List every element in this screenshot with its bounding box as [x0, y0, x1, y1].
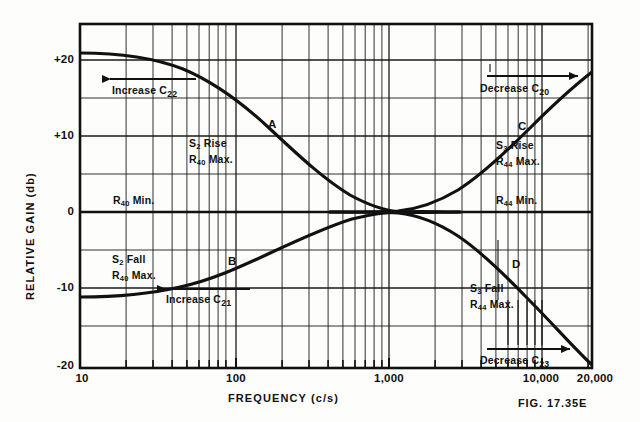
- increase-c21-text: Increase C: [166, 293, 221, 305]
- decrease-c23-subscript: 23: [539, 359, 549, 369]
- s3-fall-line2: R44 Max.: [470, 298, 514, 314]
- decrease-c20-subscript: 20: [539, 87, 549, 97]
- annotation-increase-c22: Increase C22: [112, 84, 177, 99]
- s2-fall-line1: S2 Fall: [112, 253, 156, 269]
- s3-rise-line2: R44 Max.: [496, 155, 540, 171]
- curve-label-c: C: [518, 120, 527, 132]
- increase-c22-subscript: 22: [167, 89, 177, 99]
- r44-min-subscript: 44: [504, 199, 513, 208]
- y-tick-label-plus20: +20: [40, 53, 74, 65]
- s3-fall-word: Fall: [482, 282, 504, 294]
- annotation-decrease-c23: Decrease C23: [480, 354, 549, 369]
- r44-max-subscript: 44: [504, 159, 513, 168]
- decrease-c23-text: Decrease C: [480, 354, 539, 366]
- s2-rise-line1: S2 Rise: [189, 137, 233, 153]
- curve-label-d: D: [512, 258, 521, 270]
- r40-min-symbol: R: [113, 194, 121, 206]
- r44-max-word: Max.: [513, 155, 540, 167]
- curve-label-b: B: [228, 255, 237, 267]
- r40-max2-symbol: R: [112, 269, 120, 281]
- annotation-s2-fall: S2 Fall R40 Max.: [112, 253, 156, 284]
- r40-max2-subscript: 40: [120, 273, 129, 282]
- s2-fall-word: Fall: [124, 253, 146, 265]
- increase-c22-text: Increase C: [112, 84, 167, 96]
- s3-rise-line1: S3 Rise: [496, 139, 540, 155]
- s2-rise-word: Rise: [201, 137, 227, 149]
- annotation-decrease-c20: Decrease C20: [480, 82, 549, 97]
- r44-max2-symbol: R: [470, 298, 478, 310]
- r40-max-subscript: 40: [197, 157, 206, 166]
- s3-rise-word: Rise: [508, 139, 534, 151]
- s2-fall-line2: R40 Max.: [112, 269, 156, 285]
- r40-min-subscript: 40: [121, 199, 130, 208]
- annotation-r44-min: R44 Min.: [496, 194, 537, 210]
- y-axis-title: RELATIVE GAIN (db): [24, 172, 36, 300]
- annotation-s2-rise: S2 Rise R40 Max.: [189, 137, 233, 168]
- annotation-s3-fall: S3 Fall R44 Max.: [470, 282, 514, 313]
- y-tick-label-minus20: -20: [40, 359, 74, 371]
- x-tick-label-10000: 10,000: [512, 372, 570, 384]
- annotation-s3-rise: S3 Rise R44 Max.: [496, 139, 540, 170]
- s3-fall-line1: S3 Fall: [470, 282, 514, 298]
- x-axis-title: FREQUENCY (c/s): [228, 392, 339, 404]
- figure-caption: FIG. 17.35E: [518, 397, 587, 409]
- r44-max-symbol: R: [496, 155, 504, 167]
- figure-root: +20 +10 0 -10 -20 10 100 1,000 10,000 20…: [0, 0, 640, 422]
- r40-max2-word: Max.: [129, 269, 156, 281]
- decrease-c20-text: Decrease C: [480, 82, 539, 94]
- curve-label-a: A: [268, 118, 277, 130]
- r44-min-word: Min.: [513, 194, 538, 206]
- y-tick-label-minus10: -10: [40, 281, 74, 293]
- y-tick-label-plus10: +10: [40, 129, 74, 141]
- r40-max-word: Max.: [206, 153, 233, 165]
- r44-max2-subscript: 44: [478, 302, 487, 311]
- x-tick-label-1000: 1,000: [363, 372, 415, 384]
- x-tick-label-100: 100: [214, 372, 258, 384]
- r40-max-symbol: R: [189, 153, 197, 165]
- increase-c21-subscript: 21: [221, 298, 231, 308]
- s2-rise-line2: R40 Max.: [189, 153, 233, 169]
- r44-max2-word: Max.: [487, 298, 514, 310]
- x-tick-label-10: 10: [62, 372, 102, 384]
- r44-min-symbol: R: [496, 194, 504, 206]
- annotation-increase-c21: Increase C21: [166, 293, 231, 308]
- x-tick-label-20000: 20,000: [566, 372, 624, 384]
- annotation-r40-min: R40 Min.: [113, 194, 154, 210]
- y-tick-label-zero: 0: [40, 205, 74, 217]
- r40-min-word: Min.: [130, 194, 155, 206]
